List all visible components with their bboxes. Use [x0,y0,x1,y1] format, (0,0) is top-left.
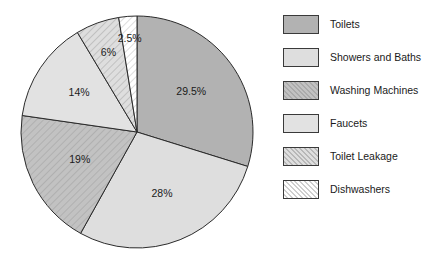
legend-label-faucets: Faucets [330,114,367,133]
pie-chart-figure: 29.5%28%19%14%6%2.5% Toilets Showers and… [0,0,440,266]
legend-label-toilet-leakage: Toilet Leakage [330,147,398,166]
pie-slices [21,16,253,248]
pie-slice-label-dishwashers: 2.5% [118,32,142,44]
showers-and-baths-swatch [283,48,319,67]
legend-item-washing-machines[interactable]: Washing Machines [283,77,438,110]
faucets-swatch [283,114,319,133]
legend-item-dishwashers[interactable]: Dishwashers [283,176,438,209]
legend-label-toilets: Toilets [330,15,360,34]
legend-item-toilets[interactable]: Toilets [283,11,438,44]
legend-label-showers-and-baths: Showers and Baths [330,48,421,67]
legend-item-faucets[interactable]: Faucets [283,110,438,143]
pie-plot-area: 29.5%28%19%14%6%2.5% [0,0,275,266]
dishwashers-swatch [283,180,319,199]
legend-item-toilet-leakage[interactable]: Toilet Leakage [283,143,438,176]
pie-svg: 29.5%28%19%14%6%2.5% [0,0,275,266]
pie-slice-label-faucets: 14% [69,86,90,98]
toilet-leakage-swatch [283,147,319,166]
pie-slice-label-toilet-leakage: 6% [101,46,116,58]
legend-label-washing-machines: Washing Machines [330,81,418,100]
pie-slice-label-showers-and-baths: 28% [151,187,172,199]
chart-legend: Toilets Showers and Baths Washing Machin… [283,11,438,209]
legend-label-dishwashers: Dishwashers [330,180,390,199]
pie-slice-label-washing-machines: 19% [69,153,90,165]
legend-item-showers-and-baths[interactable]: Showers and Baths [283,44,438,77]
toilets-swatch [283,15,319,34]
washing-machines-swatch [283,81,319,100]
pie-slice-label-toilets: 29.5% [176,85,206,97]
